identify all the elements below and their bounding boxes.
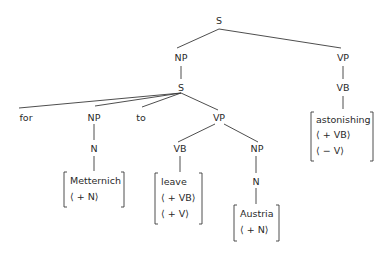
node-vb-mid: VB bbox=[173, 143, 186, 154]
node-vb-right: VB bbox=[336, 82, 349, 93]
node-np-top: NP bbox=[175, 52, 188, 63]
right-bracket-icon bbox=[199, 173, 202, 224]
feature-plus-n: ⟨ + N⟩ bbox=[70, 191, 99, 202]
node-for: for bbox=[19, 112, 32, 123]
word-astonishing: astonishing bbox=[316, 114, 371, 125]
edge-s-vp bbox=[219, 29, 341, 48]
edge-s-vp-mid bbox=[181, 93, 218, 110]
word-austria: Austria bbox=[240, 208, 274, 219]
node-s-embedded: S bbox=[178, 82, 184, 93]
feature-plus-vb: ⟨ + VB⟩ bbox=[316, 129, 350, 140]
feature-plus-vb: ⟨ + VB⟩ bbox=[161, 192, 195, 203]
feature-plus-v: ⟨ + V⟩ bbox=[161, 208, 189, 219]
tree-svg: S NP VP S VB for NP to VP N VB NP N asto… bbox=[0, 0, 390, 256]
feature-minus-v: ⟨ − V⟩ bbox=[316, 145, 344, 156]
node-n-left: N bbox=[90, 143, 97, 154]
edge-vp-np bbox=[224, 124, 258, 142]
feature-box-metternich: Metternich ⟨ + N⟩ bbox=[64, 172, 124, 207]
feature-box-leave: leave ⟨ + VB⟩ ⟨ + V⟩ bbox=[155, 173, 202, 224]
edge-vp-vb bbox=[178, 124, 215, 142]
left-bracket-icon bbox=[64, 172, 67, 207]
node-n-mid: N bbox=[252, 176, 259, 187]
node-vp-top: VP bbox=[337, 52, 349, 63]
feature-box-astonishing: astonishing ⟨ + VB⟩ ⟨ − V⟩ bbox=[311, 112, 373, 161]
tree-nodes: S NP VP S VB for NP to VP N VB NP N bbox=[19, 15, 349, 187]
node-to: to bbox=[136, 112, 146, 123]
node-np-mid: NP bbox=[251, 143, 264, 154]
feature-box-austria: Austria ⟨ + N⟩ bbox=[234, 205, 279, 241]
right-bracket-icon bbox=[121, 172, 124, 207]
edge-s-np bbox=[177, 29, 219, 48]
word-leave: leave bbox=[161, 176, 187, 187]
node-root-s: S bbox=[216, 15, 222, 26]
node-vp-mid: VP bbox=[213, 112, 225, 123]
right-bracket-icon bbox=[276, 205, 279, 241]
node-np-left: NP bbox=[88, 112, 101, 123]
left-bracket-icon bbox=[311, 112, 314, 161]
left-bracket-icon bbox=[234, 205, 237, 241]
syntax-tree-diagram: S NP VP S VB for NP to VP N VB NP N asto… bbox=[0, 0, 390, 256]
feature-plus-n: ⟨ + N⟩ bbox=[240, 224, 269, 235]
edge-s-for bbox=[19, 93, 181, 108]
left-bracket-icon bbox=[155, 173, 158, 224]
word-metternich: Metternich bbox=[70, 175, 121, 186]
